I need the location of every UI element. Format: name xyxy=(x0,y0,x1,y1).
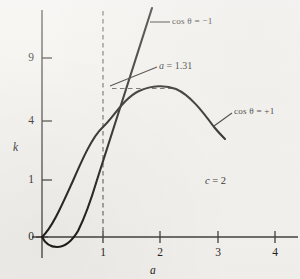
tangency-annotation-value: = 1.31 xyxy=(167,60,193,71)
tangency-annotation: a = 1.31 xyxy=(159,61,192,71)
parameter-annotation-variable: c xyxy=(205,175,210,186)
axis-lines xyxy=(32,10,298,258)
parameter-annotation-value: = 2 xyxy=(212,175,226,186)
x-tick-label-2: 2 xyxy=(151,247,169,259)
tangency-annotation-variable: a xyxy=(159,60,164,71)
figure-container: 9 4 1 0 k 1 2 3 4 a cos θ = −1 cos θ = +… xyxy=(0,0,300,279)
y-tick-label-0: 0 xyxy=(22,231,34,243)
lower-curve-label: cos θ = +1 xyxy=(234,107,275,116)
x-tick-label-1: 1 xyxy=(94,247,112,259)
x-tick-label-3: 3 xyxy=(209,247,227,259)
parameter-annotation: c = 2 xyxy=(205,176,226,187)
x-axis-label: a xyxy=(150,265,156,277)
curve-cos-theta-plus-1 xyxy=(42,86,225,237)
plot-canvas xyxy=(0,0,300,279)
leader-line-lower-curve xyxy=(214,113,232,126)
x-tick-label-4: 4 xyxy=(266,247,284,259)
upper-curve-label: cos θ = −1 xyxy=(172,17,213,26)
y-axis-ticks xyxy=(36,58,52,237)
y-axis-label: k xyxy=(13,142,18,154)
y-tick-label-4: 4 xyxy=(22,115,34,127)
y-tick-label-1: 1 xyxy=(22,174,34,186)
leader-line-tangency-annotation xyxy=(110,67,157,86)
y-tick-label-9: 9 xyxy=(22,52,34,64)
